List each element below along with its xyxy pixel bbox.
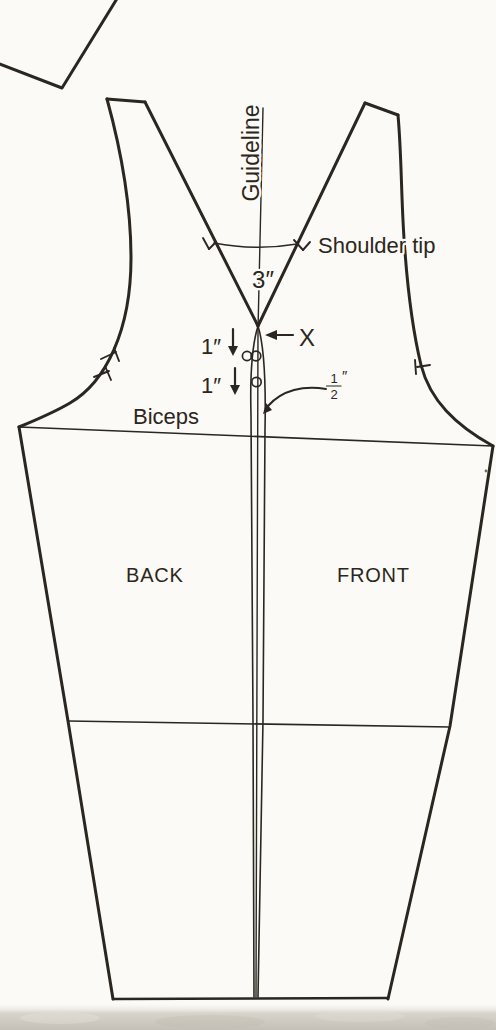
guideline-label: Guideline	[238, 104, 264, 201]
half-inch-denominator: 2	[330, 387, 337, 402]
half-inch-unit: ″	[342, 367, 348, 384]
print-speck	[485, 470, 488, 473]
one-inch-measurement-upper: 1″	[201, 334, 221, 359]
book-page-scan: Guideline Shoulder tip 3″ X 1″ 1″ 1 2 ″ …	[0, 0, 496, 1030]
page-bottom-edge	[0, 1004, 496, 1030]
half-inch-numerator: 1	[330, 371, 337, 386]
wrist-hem-line	[113, 998, 388, 999]
shoulder-tip-label: Shoulder tip	[318, 233, 435, 258]
biceps-label: Biceps	[133, 404, 199, 429]
one-inch-measurement-lower: 1″	[201, 373, 221, 398]
back-piece-label: BACK	[126, 564, 184, 586]
dart-spread-measurement: 3″	[252, 266, 274, 293]
sleeve-pattern-diagram: Guideline Shoulder tip 3″ X 1″ 1″ 1 2 ″ …	[0, 0, 496, 1030]
x-point-label: X	[299, 324, 315, 351]
front-piece-label: FRONT	[337, 564, 410, 586]
